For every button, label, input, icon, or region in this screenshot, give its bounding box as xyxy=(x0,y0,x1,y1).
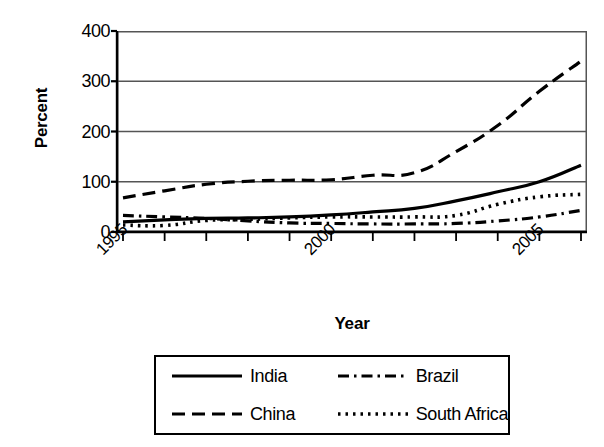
y-axis-tick-labels: 0100200300400 xyxy=(60,0,110,250)
line-chart-figure: Percent 0100200300400 199520002005 Year … xyxy=(0,0,604,447)
legend-swatch-dotted xyxy=(336,407,410,421)
legend-label: South Africa xyxy=(416,405,508,423)
legend-entry-india[interactable]: India xyxy=(156,357,322,395)
y-axis-title: Percent xyxy=(32,58,52,178)
legend-swatch-dashed xyxy=(170,407,244,421)
legend-label: India xyxy=(250,367,287,385)
y-tick-label: 200 xyxy=(62,123,110,141)
legend-label: China xyxy=(250,405,295,423)
y-tick-label: 400 xyxy=(62,22,110,40)
legend-entry-brazil[interactable]: Brazil xyxy=(322,357,508,395)
legend-entry-south-africa[interactable]: South Africa xyxy=(322,395,508,433)
y-tick-label: 300 xyxy=(62,72,110,90)
legend-grid: IndiaBrazilChinaSouth Africa xyxy=(156,357,508,433)
legend-entry-china[interactable]: China xyxy=(156,395,322,433)
series-line-india xyxy=(123,165,581,222)
x-axis-title: Year xyxy=(117,314,587,334)
plot-svg xyxy=(117,31,587,232)
plot-area xyxy=(117,31,587,232)
legend-swatch-solid xyxy=(170,369,244,383)
y-tick-label: 100 xyxy=(62,173,110,191)
series-line-south-africa xyxy=(123,194,581,226)
legend-label: Brazil xyxy=(416,367,459,385)
chart-legend: IndiaBrazilChinaSouth Africa xyxy=(154,355,510,435)
legend-swatch-dash-dot xyxy=(336,369,410,383)
